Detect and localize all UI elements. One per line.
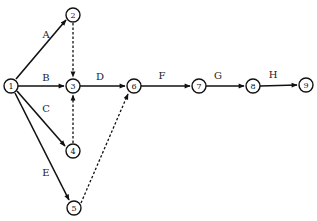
node-8: 8 [246,79,260,93]
node-7: 7 [192,79,206,93]
edge-1-4-activity-c [17,91,65,146]
label-h: H [269,69,278,80]
node-3-label: 3 [70,82,75,91]
node-1-label: 1 [8,82,13,91]
edge-8-9-activity-h [260,85,297,86]
node-3: 3 [66,79,80,93]
node-7-label: 7 [196,82,201,91]
node-5-label: 5 [71,204,76,213]
edge-1-2-activity-a [16,20,66,79]
label-d: D [96,71,104,82]
node-6: 6 [127,79,141,93]
network-diagram: A B C D E F G H 1 2 3 4 5 6 7 8 9 [0,0,317,221]
node-2: 2 [66,8,80,22]
node-9: 9 [299,78,313,92]
node-2-label: 2 [70,11,75,20]
node-9-label: 9 [303,81,308,90]
node-6-label: 6 [131,82,136,91]
node-1: 1 [4,79,18,93]
label-e: E [42,167,49,178]
node-5: 5 [67,201,81,215]
edge-5-6-dummy [81,94,128,203]
label-b: B [42,72,49,83]
node-4: 4 [66,144,80,158]
node-4-label: 4 [70,147,75,156]
label-c: C [42,103,50,114]
label-g: G [214,70,222,81]
label-a: A [41,29,50,40]
edges [15,20,297,203]
node-8-label: 8 [250,82,255,91]
label-f: F [159,70,166,81]
